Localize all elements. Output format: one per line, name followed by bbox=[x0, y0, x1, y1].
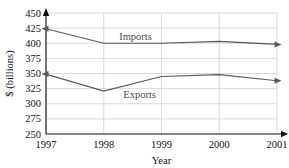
y-axis-tick-label: 375 bbox=[25, 53, 41, 64]
y-axis-title: $ (billions) bbox=[4, 50, 16, 97]
series-start-arrowhead-icon bbox=[42, 71, 49, 77]
y-axis-tick-label: 350 bbox=[25, 68, 41, 79]
series-start-arrowhead-icon bbox=[42, 26, 49, 32]
line-chart: 250275300325350375400425450 199719981999… bbox=[0, 0, 289, 168]
y-axis-tick-label: 450 bbox=[25, 8, 41, 19]
y-axis-tick-label: 250 bbox=[25, 129, 41, 140]
x-axis-arrowhead-icon bbox=[281, 131, 288, 137]
x-axis-tick-label: 1998 bbox=[93, 139, 114, 150]
y-axis-tick-label: 275 bbox=[25, 113, 41, 124]
chart-canvas: 250275300325350375400425450 199719981999… bbox=[0, 0, 289, 168]
y-axis-tick-label: 400 bbox=[25, 38, 41, 49]
y-axis-tick-labels: 250275300325350375400425450 bbox=[25, 8, 41, 140]
series-end-arrowhead-icon bbox=[275, 78, 282, 84]
y-axis-tick-label: 300 bbox=[25, 98, 41, 109]
series-end-arrowhead-icon bbox=[275, 41, 282, 47]
x-axis-tick-label: 2000 bbox=[209, 139, 230, 150]
series-inline-labels: ImportsExports bbox=[119, 31, 156, 101]
x-axis-tick-labels: 19971998199920002001 bbox=[36, 139, 288, 150]
x-axis-tick-label: 2001 bbox=[267, 139, 288, 150]
y-axis-arrowhead-icon bbox=[43, 8, 49, 16]
x-axis-title: Year bbox=[152, 155, 172, 166]
series-annotation-exports: Exports bbox=[123, 89, 156, 100]
series-annotation-imports: Imports bbox=[119, 31, 152, 42]
y-axis-tick-label: 325 bbox=[25, 83, 41, 94]
chart-axes bbox=[43, 8, 288, 137]
y-axis-tick-label: 425 bbox=[25, 23, 41, 34]
x-axis-tick-label: 1999 bbox=[151, 139, 172, 150]
x-axis-tick-label: 1997 bbox=[36, 139, 57, 150]
